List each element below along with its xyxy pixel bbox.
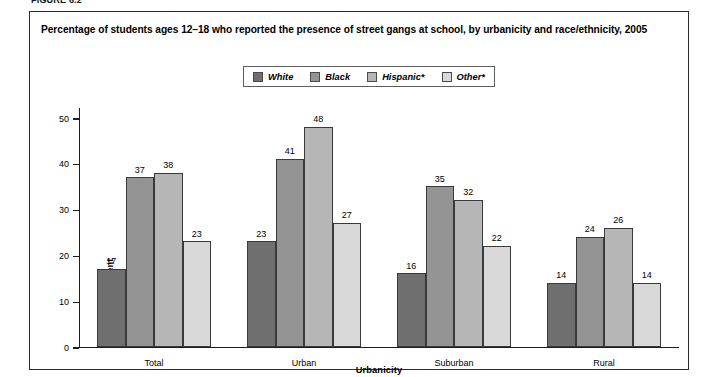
bar [454, 200, 483, 347]
bar [604, 228, 633, 347]
bar [304, 127, 333, 347]
bar-value-label: 16 [397, 262, 426, 271]
figure-frame: Percentage of students ages 12–18 who re… [29, 11, 689, 370]
bar [247, 241, 276, 346]
plot-area: Percent Urbanicity 0102030405017373823To… [79, 97, 679, 348]
legend-swatch-icon [442, 72, 452, 82]
bar-value-label: 14 [547, 271, 576, 280]
x-axis-group-label: Suburban [379, 359, 529, 368]
x-axis-group-label: Rural [529, 359, 679, 368]
y-axis-tick-label: 10 [51, 298, 69, 307]
legend-item: White [253, 72, 293, 82]
y-axis-tick-label: 50 [51, 115, 69, 124]
bar [397, 273, 426, 346]
y-axis-tick [73, 118, 79, 119]
y-axis-tick-label: 30 [51, 206, 69, 215]
legend-item: Black [310, 72, 350, 82]
bar-value-label: 14 [633, 271, 662, 280]
bar [633, 283, 662, 347]
y-axis-tick-label: 0 [51, 344, 69, 353]
bar [183, 241, 212, 346]
bar [154, 173, 183, 347]
bar-value-label: 35 [426, 175, 455, 184]
bar-value-label: 22 [483, 234, 512, 243]
bar-value-label: 38 [154, 161, 183, 170]
bar-value-label: 26 [604, 216, 633, 225]
bar [333, 223, 362, 347]
bar [426, 186, 455, 346]
y-axis-tick [73, 347, 79, 348]
y-axis-tick-label: 20 [51, 252, 69, 261]
legend-item-label: Other* [457, 72, 485, 82]
legend-swatch-icon [310, 72, 320, 82]
bar-value-label: 23 [183, 230, 212, 239]
bar [97, 269, 126, 347]
bar-value-label: 48 [304, 115, 333, 124]
bar-value-label: 23 [247, 230, 276, 239]
chart-legend: WhiteBlackHispanic*Other* [243, 66, 495, 87]
bar [547, 283, 576, 347]
legend-swatch-icon [367, 72, 377, 82]
y-axis-tick [73, 302, 79, 303]
bar [576, 237, 605, 347]
bar-value-label: 32 [454, 188, 483, 197]
y-axis-tick-label: 40 [51, 160, 69, 169]
y-axis-tick [73, 210, 79, 211]
bar-value-label: 27 [333, 211, 362, 220]
bar-value-label: 24 [576, 225, 605, 234]
bar-value-label: 41 [276, 147, 305, 156]
legend-item: Other* [442, 72, 485, 82]
legend-swatch-icon [253, 72, 263, 82]
legend-item: Hispanic* [367, 72, 424, 82]
y-axis-tick [73, 164, 79, 165]
y-axis-tick [73, 256, 79, 257]
figure-title: Percentage of students ages 12–18 who re… [41, 23, 678, 36]
legend-item-label: Black [325, 72, 350, 82]
bar [483, 246, 512, 347]
bar [126, 177, 155, 346]
legend-item-label: Hispanic* [382, 72, 424, 82]
figure-number: FIGURE 6.2 [31, 0, 82, 5]
x-axis-group-label: Total [79, 359, 229, 368]
bar-value-label: 17 [97, 257, 126, 266]
bar-value-label: 37 [126, 166, 155, 175]
legend-item-label: White [268, 72, 293, 82]
y-axis-line [79, 108, 80, 348]
x-axis-line [79, 347, 679, 348]
bar [276, 159, 305, 347]
x-axis-group-label: Urban [229, 359, 379, 368]
